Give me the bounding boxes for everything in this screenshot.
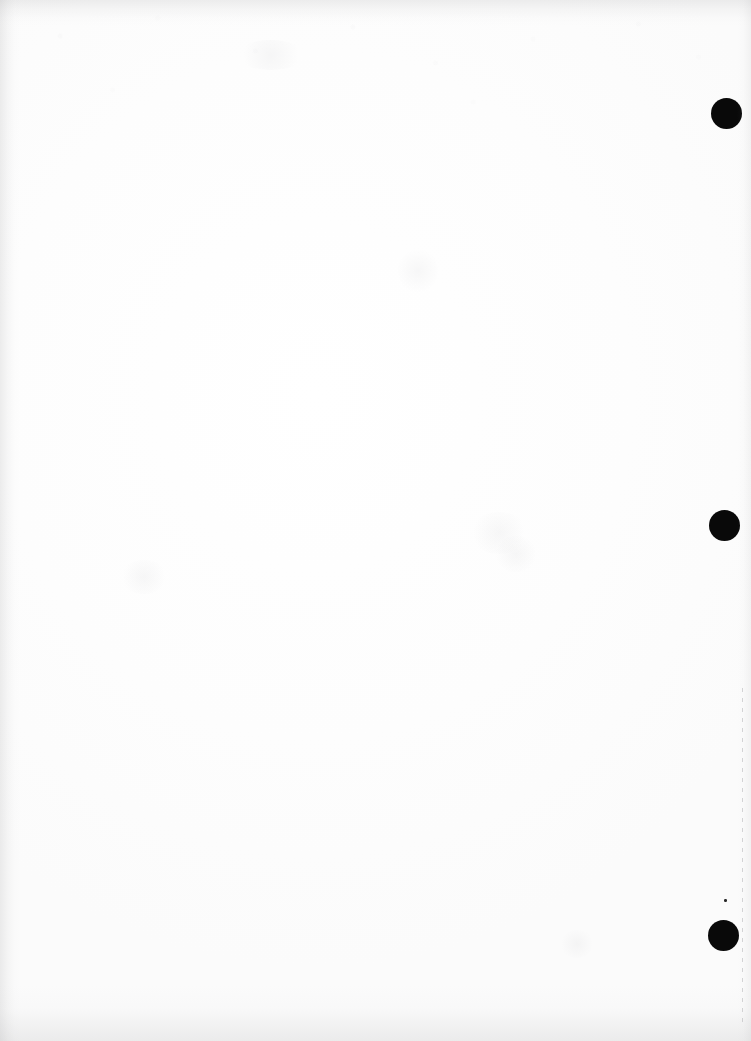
- ink-speck: [724, 899, 727, 902]
- page-body-text: [60, 60, 680, 960]
- scan-edge-shadow-left: [0, 0, 20, 1041]
- scan-edge-shadow-bottom: [0, 985, 751, 1041]
- middle-punch-dot: [709, 510, 740, 541]
- bottom-punch-dot: [708, 920, 739, 951]
- dashed-margin-rule: [742, 688, 743, 1028]
- scanned-page: [0, 0, 751, 1041]
- top-punch-dot: [711, 98, 742, 129]
- scan-edge-shadow-top: [0, 0, 751, 26]
